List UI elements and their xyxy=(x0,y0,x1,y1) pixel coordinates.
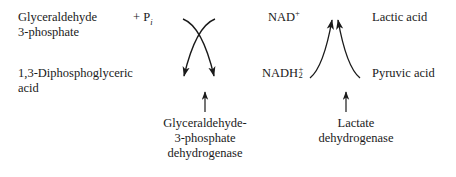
nad-text: NAD xyxy=(268,10,295,24)
nad-superscript: + xyxy=(295,8,300,18)
nadh-subscript: 2 xyxy=(299,72,304,79)
enzyme-left-line3: dehydrogenase xyxy=(130,146,280,161)
nadh-text: NADH xyxy=(262,66,298,80)
label-nadh2-plus: NADH+2 xyxy=(262,66,303,81)
plus-sign: + xyxy=(133,10,140,24)
label-glyceraldehyde-3-phosphate: Glyceraldehyde 3-phosphate xyxy=(18,10,97,40)
diphosphoglyceric-line2: acid xyxy=(18,81,133,96)
enzyme-left-line2: 3-phosphate xyxy=(130,131,280,146)
label-glyceraldehyde-3-phosphate-dehydrogenase: Glyceraldehyde- 3-phosphate dehydrogenas… xyxy=(130,116,280,161)
arrow-gap3-to-dpg-left xyxy=(184,19,215,76)
arrow-nadh2-to-lactic-acid xyxy=(310,20,332,78)
diphosphoglyceric-line1: 1,3-Diphosphoglyceric xyxy=(18,66,133,81)
label-1-3-diphosphoglyceric-acid: 1,3-Diphosphoglyceric acid xyxy=(18,66,133,96)
label-nad-plus: NAD+ xyxy=(268,10,300,25)
reaction-diagram: Glyceraldehyde 3-phosphate + Pi 1,3-Diph… xyxy=(0,0,456,177)
glyceraldehyde-line2: 3-phosphate xyxy=(18,25,97,40)
enzyme-left-line1: Glyceraldehyde- xyxy=(130,116,280,131)
label-pyruvic-acid: Pyruvic acid xyxy=(372,66,435,81)
phosphate-subscript: i xyxy=(150,17,152,27)
arrow-pyruvic-to-nad-plus xyxy=(338,20,360,78)
enzyme-right-line1: Lactate xyxy=(282,116,430,131)
enzyme-right-line2: dehydrogenase xyxy=(282,131,430,146)
nadh-charge-stack: +2 xyxy=(299,66,304,79)
label-lactate-dehydrogenase: Lactate dehydrogenase xyxy=(282,116,430,146)
label-inorganic-phosphate: + Pi xyxy=(133,10,153,25)
arrow-gap3-to-dpg-right xyxy=(183,19,214,76)
label-lactic-acid: Lactic acid xyxy=(372,10,427,25)
glyceraldehyde-line1: Glyceraldehyde xyxy=(18,10,97,25)
